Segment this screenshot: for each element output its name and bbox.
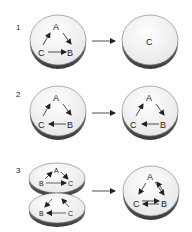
diagram-canvas: 1 A C B C 2 A C B: [0, 0, 192, 232]
disc-combined: A C B: [123, 166, 179, 220]
disc-stack-top: A B C: [29, 163, 85, 197]
node-c: C: [133, 199, 140, 209]
node-c: C: [38, 120, 45, 130]
node-c: C: [38, 48, 45, 58]
node-b: B: [161, 199, 167, 209]
disc-left: A C B: [30, 86, 86, 140]
node-b: B: [160, 120, 166, 130]
node-a: A: [147, 172, 153, 182]
node-c: C: [68, 210, 73, 217]
node-c: C: [130, 120, 137, 130]
panel-number: 3: [16, 166, 21, 175]
panel-number: 1: [16, 23, 21, 32]
disc-right: A C B: [122, 86, 178, 140]
disc-cyclic-abc: A C B: [30, 15, 86, 69]
node-a: A: [54, 167, 59, 174]
node-b: B: [67, 48, 73, 58]
disc-stack-bottom: B C: [29, 193, 85, 227]
node-a: A: [146, 93, 152, 103]
panel-2: 2 A C B A C B: [16, 86, 178, 140]
node-a: A: [53, 93, 59, 103]
panel-3: 3 A B C B C A C B: [16, 163, 179, 227]
node-c: C: [146, 37, 153, 47]
panel-1: 1 A C B C: [16, 15, 178, 69]
node-b: B: [39, 180, 44, 187]
disc-collapsed-c: C: [122, 15, 178, 69]
node-b: B: [67, 120, 73, 130]
node-c: C: [68, 180, 73, 187]
node-b: B: [39, 210, 44, 217]
node-a: A: [53, 22, 59, 32]
panel-number: 2: [16, 90, 21, 99]
